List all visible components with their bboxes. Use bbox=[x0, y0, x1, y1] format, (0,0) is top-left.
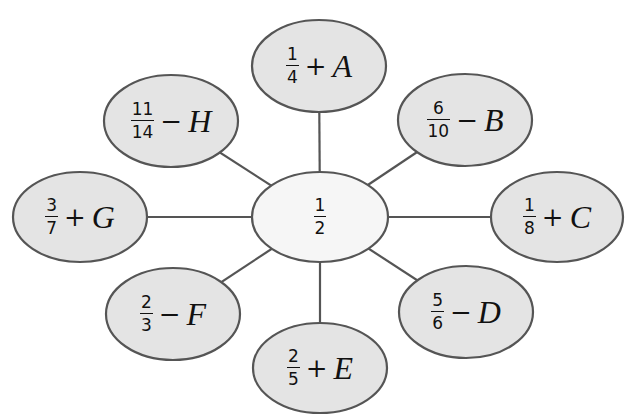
node-operator: − bbox=[450, 299, 472, 325]
node-fraction: 1114 bbox=[131, 101, 155, 142]
node-numerator: 5 bbox=[431, 292, 444, 311]
node-numerator: 11 bbox=[131, 101, 155, 120]
node-denominator: 4 bbox=[286, 66, 299, 86]
node-numerator: 3 bbox=[45, 197, 58, 216]
node-operator: + bbox=[306, 355, 328, 381]
node-f: 23−F bbox=[106, 268, 240, 360]
node-variable: F bbox=[187, 298, 207, 330]
node-variable: E bbox=[334, 352, 354, 384]
node-fraction: 18 bbox=[523, 197, 536, 238]
node-expression: 23−F bbox=[140, 294, 206, 335]
node-a: 14+A bbox=[252, 20, 386, 112]
node-numerator: 2 bbox=[140, 294, 153, 313]
node-fraction: 610 bbox=[427, 100, 451, 141]
node-numerator: 1 bbox=[523, 197, 536, 216]
node-denominator: 10 bbox=[427, 120, 451, 140]
node-fraction: 25 bbox=[287, 348, 300, 389]
node-denominator: 8 bbox=[523, 217, 536, 237]
node-expression: 14+A bbox=[286, 46, 352, 87]
node-variable: D bbox=[478, 296, 501, 328]
node-fraction: 56 bbox=[431, 292, 444, 333]
node-denominator: 14 bbox=[131, 121, 155, 141]
node-fraction: 37 bbox=[45, 197, 58, 238]
node-expression: 1114−H bbox=[131, 101, 212, 142]
node-operator: + bbox=[542, 204, 564, 230]
node-operator: − bbox=[160, 108, 182, 134]
node-numerator: 2 bbox=[287, 348, 300, 367]
node-expression: 18+C bbox=[523, 197, 591, 238]
node-operator: + bbox=[305, 53, 327, 79]
node-d: 56−D bbox=[399, 266, 533, 358]
node-numerator: 6 bbox=[432, 100, 445, 119]
center-numerator: 1 bbox=[314, 197, 327, 216]
node-denominator: 3 bbox=[140, 314, 153, 334]
node-variable: B bbox=[484, 104, 504, 136]
node-denominator: 5 bbox=[287, 368, 300, 388]
node-variable: C bbox=[570, 201, 591, 233]
node-variable: A bbox=[333, 50, 353, 82]
node-denominator: 7 bbox=[45, 217, 58, 237]
node-numerator: 1 bbox=[286, 46, 299, 65]
node-denominator: 6 bbox=[431, 312, 444, 332]
node-operator: − bbox=[159, 301, 181, 327]
center-denominator: 2 bbox=[314, 217, 327, 237]
node-e: 25+E bbox=[253, 323, 387, 413]
node-b: 610−B bbox=[398, 74, 532, 166]
node-g: 37+G bbox=[13, 172, 147, 262]
node-c: 18+C bbox=[491, 172, 623, 262]
node-variable: G bbox=[92, 201, 115, 233]
node-expression: 37+G bbox=[45, 197, 115, 238]
center-fraction: 1 2 bbox=[314, 197, 327, 238]
center-node: 1 2 bbox=[252, 172, 388, 262]
node-operator: + bbox=[64, 204, 86, 230]
node-fraction: 14 bbox=[286, 46, 299, 87]
node-operator: − bbox=[456, 107, 478, 133]
node-h: 1114−H bbox=[104, 75, 238, 167]
node-variable: H bbox=[188, 105, 211, 137]
node-expression: 25+E bbox=[287, 348, 353, 389]
node-fraction: 23 bbox=[140, 294, 153, 335]
node-expression: 610−B bbox=[427, 100, 504, 141]
node-expression: 56−D bbox=[431, 292, 501, 333]
